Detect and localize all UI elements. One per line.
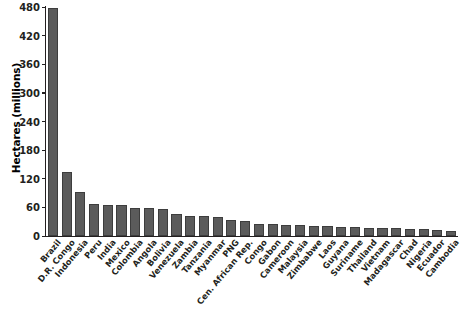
bar xyxy=(350,227,360,236)
y-tick-label: 300 xyxy=(19,87,40,98)
bar xyxy=(377,228,387,236)
bar xyxy=(446,231,456,236)
bar xyxy=(171,214,181,236)
y-tick-label: 180 xyxy=(19,145,40,156)
bar xyxy=(432,230,442,236)
bar xyxy=(116,205,126,236)
bar xyxy=(213,217,223,236)
bar xyxy=(226,220,236,236)
x-axis-labels: BrazilD.R. CongoIndonesiaPeruIndiaMexico… xyxy=(46,238,458,320)
y-tick-label: 60 xyxy=(26,202,40,213)
x-axis-line xyxy=(45,236,458,237)
bar xyxy=(185,216,195,237)
bar xyxy=(391,228,401,236)
bar xyxy=(405,229,415,236)
bar xyxy=(130,208,140,236)
y-tick-label: 420 xyxy=(19,30,40,41)
y-tick-label: 240 xyxy=(19,116,40,127)
y-tick-label: 480 xyxy=(19,2,40,13)
bar xyxy=(89,204,99,236)
bar xyxy=(281,225,291,236)
bar xyxy=(48,8,58,236)
plot-area: 060120180240300360420480 xyxy=(46,7,458,236)
bar xyxy=(240,221,250,236)
bar xyxy=(322,226,332,236)
bar xyxy=(309,226,319,236)
y-tick-label: 120 xyxy=(19,173,40,184)
bar xyxy=(144,208,154,236)
y-tick-label: 0 xyxy=(33,231,40,242)
bar xyxy=(158,209,168,236)
bar xyxy=(364,228,374,236)
bar xyxy=(103,205,113,236)
bar xyxy=(62,172,72,236)
bar xyxy=(75,192,85,236)
y-tick-label: 360 xyxy=(19,59,40,70)
bar xyxy=(199,216,209,236)
bar xyxy=(336,227,346,236)
bar xyxy=(254,224,264,236)
bar-chart: Hectares (millions) 06012018024030036042… xyxy=(0,0,465,321)
bar xyxy=(419,229,429,236)
bar-series xyxy=(46,7,458,236)
bar xyxy=(268,224,278,236)
bar xyxy=(295,225,305,236)
